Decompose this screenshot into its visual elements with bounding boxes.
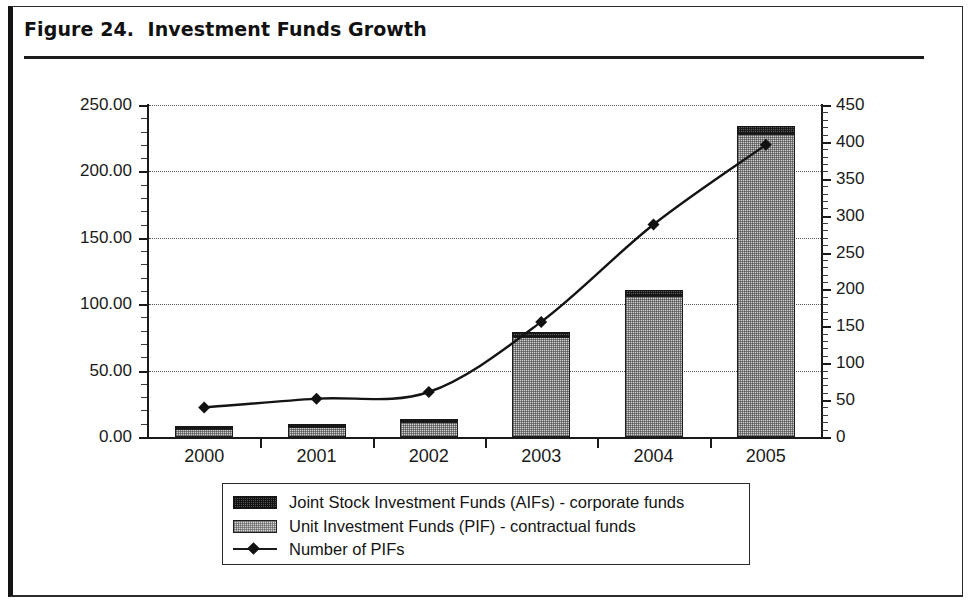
left-axis-label: 0.00 xyxy=(52,427,132,447)
left-axis-minor-tick xyxy=(141,118,147,119)
right-axis-minor-tick xyxy=(822,127,828,128)
left-axis-minor-tick xyxy=(141,132,147,133)
right-axis-minor-tick xyxy=(822,282,828,283)
left-axis-minor-tick xyxy=(141,317,147,318)
left-axis-label: 150.00 xyxy=(52,228,132,248)
left-axis-minor-tick xyxy=(141,397,147,398)
right-axis-tick xyxy=(822,105,831,107)
legend-item-pif: Unit Investment Funds (PIF) - contractua… xyxy=(233,514,636,538)
legend-item-aif: Joint Stock Investment Funds (AIFs) - co… xyxy=(233,490,684,514)
right-axis-minor-tick xyxy=(822,385,828,386)
right-axis-minor-tick xyxy=(822,186,828,187)
bar-segment-pif xyxy=(288,427,346,437)
right-axis-minor-tick xyxy=(822,149,828,150)
right-axis-minor-tick xyxy=(822,171,828,172)
bar-segment-aif xyxy=(737,126,795,134)
right-axis-line xyxy=(821,104,823,439)
bar-segment-aif xyxy=(512,332,570,337)
left-axis-label: 100.00 xyxy=(52,294,132,314)
bar-stack xyxy=(400,419,458,437)
left-axis-label: 50.00 xyxy=(52,361,132,381)
x-axis-label: 2003 xyxy=(485,446,597,467)
bar-segment-pif xyxy=(400,422,458,437)
left-axis-minor-tick xyxy=(141,225,147,226)
bar-stack xyxy=(625,290,683,437)
right-axis-tick xyxy=(822,253,831,255)
x-axis-label: 2004 xyxy=(598,446,710,467)
right-axis-minor-tick xyxy=(822,371,828,372)
right-axis-minor-tick xyxy=(822,304,828,305)
bar-segment-aif xyxy=(400,419,458,423)
gridline xyxy=(149,171,821,172)
left-axis-minor-tick xyxy=(141,357,147,358)
right-axis-label: 450 xyxy=(836,95,896,115)
right-axis-minor-tick xyxy=(822,430,828,431)
right-axis-minor-tick xyxy=(822,230,828,231)
bar-stack xyxy=(512,332,570,437)
x-axis-tick xyxy=(373,439,375,448)
gridline xyxy=(149,304,821,305)
left-axis-minor-tick xyxy=(141,145,147,146)
light-hatch-swatch-icon xyxy=(233,520,277,533)
left-axis-tick xyxy=(139,238,148,240)
right-axis-label: 250 xyxy=(836,243,896,263)
left-axis-line xyxy=(147,104,149,439)
left-axis-minor-tick xyxy=(141,384,147,385)
legend-label-pif: Unit Investment Funds (PIF) - contractua… xyxy=(289,517,636,536)
left-axis-minor-tick xyxy=(141,344,147,345)
right-axis-tick xyxy=(822,289,831,291)
right-axis-label: 150 xyxy=(836,316,896,336)
left-axis-minor-tick xyxy=(141,264,147,265)
bar-segment-pif xyxy=(625,296,683,437)
right-axis-label: 300 xyxy=(836,206,896,226)
bar-segment-pif xyxy=(737,134,795,437)
gridline xyxy=(149,105,821,106)
x-axis-label: 2001 xyxy=(261,446,373,467)
left-axis-label: 250.00 xyxy=(52,95,132,115)
left-axis-minor-tick xyxy=(141,211,147,212)
right-axis-label: 50 xyxy=(836,390,896,410)
left-axis-minor-tick xyxy=(141,424,147,425)
right-axis-minor-tick xyxy=(822,164,828,165)
left-axis-minor-tick xyxy=(141,278,147,279)
right-axis-minor-tick xyxy=(822,135,828,136)
left-axis-label: 200.00 xyxy=(52,161,132,181)
bar-stack xyxy=(737,126,795,437)
right-axis-minor-tick xyxy=(822,319,828,320)
right-axis-label: 0 xyxy=(836,427,896,447)
left-axis-tick xyxy=(139,437,148,439)
left-axis-minor-tick xyxy=(141,331,147,332)
right-axis-tick xyxy=(822,179,831,181)
x-axis-tick xyxy=(597,439,599,448)
bar-stack xyxy=(175,426,233,437)
right-axis-minor-tick xyxy=(822,334,828,335)
right-axis-minor-tick xyxy=(822,194,828,195)
bar-stack xyxy=(288,424,346,437)
right-axis-minor-tick xyxy=(822,201,828,202)
right-axis-tick xyxy=(822,142,831,144)
right-axis-label: 400 xyxy=(836,132,896,152)
right-axis-minor-tick xyxy=(822,157,828,158)
x-axis-tick xyxy=(260,439,262,448)
x-axis-label: 2005 xyxy=(710,446,822,467)
right-axis-minor-tick xyxy=(822,348,828,349)
right-axis-label: 200 xyxy=(836,279,896,299)
x-axis-tick xyxy=(485,439,487,448)
right-axis-minor-tick xyxy=(822,422,828,423)
right-axis-tick xyxy=(822,363,831,365)
right-axis-minor-tick xyxy=(822,312,828,313)
right-axis-tick xyxy=(822,400,831,402)
right-axis-tick xyxy=(822,216,831,218)
plot-area xyxy=(148,105,822,437)
bar-segment-pif xyxy=(175,429,233,437)
left-axis-tick xyxy=(139,304,148,306)
right-axis-tick xyxy=(822,326,831,328)
left-axis-minor-tick xyxy=(141,198,147,199)
right-axis-minor-tick xyxy=(822,378,828,379)
right-axis-minor-tick xyxy=(822,267,828,268)
line-diamond-marker-icon xyxy=(233,542,277,556)
right-axis-minor-tick xyxy=(822,120,828,121)
left-axis-tick xyxy=(139,171,148,173)
bar-segment-aif xyxy=(288,424,346,427)
legend-label-aif: Joint Stock Investment Funds (AIFs) - co… xyxy=(289,493,684,512)
